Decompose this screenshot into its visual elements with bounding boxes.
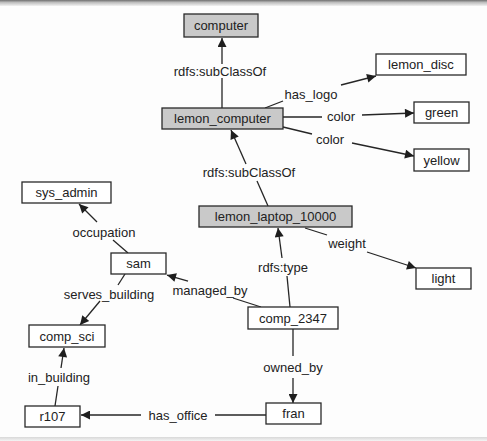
node-label: yellow: [423, 153, 460, 168]
node-label: r107: [39, 409, 65, 424]
edge-label: rdfs:subClassOf: [174, 64, 267, 79]
node-label: sys_admin: [35, 185, 97, 200]
edge-has-office: has_office: [81, 408, 266, 423]
node-r107: r107: [25, 406, 80, 427]
edge-label: color: [327, 109, 356, 124]
edge-label: has_office: [148, 408, 207, 423]
edge-label: rdfs:subClassOf: [203, 165, 296, 180]
node-lemon-computer: lemon_computer: [162, 108, 283, 129]
node-computer: computer: [184, 14, 258, 37]
edge-label: in_building: [28, 370, 90, 385]
edge-color-green: color: [283, 109, 414, 124]
node-yellow: yellow: [414, 149, 469, 171]
edge-label: managed_by: [172, 283, 248, 298]
edge-label: owned_by: [263, 360, 323, 375]
edge-managed-by: managed_by: [167, 275, 261, 307]
node-light: light: [416, 268, 471, 289]
edge-lemon-laptop-subclassof-lemon-computer: rdfs:subClassOf: [203, 130, 296, 206]
edge-serves-building: serves_building: [64, 274, 154, 325]
node-label: fran: [282, 406, 304, 421]
edge-label: color: [316, 132, 345, 147]
rdf-graph-diagram: rdfs:subClassOf has_logo color color rdf…: [0, 0, 487, 441]
node-label: computer: [194, 18, 249, 33]
node-label: lemon_laptop_10000: [215, 209, 336, 224]
node-label: lemon_computer: [174, 111, 271, 126]
edge-lemon-computer-subclassof-computer: rdfs:subClassOf: [174, 38, 267, 108]
node-label: comp_sci: [40, 329, 95, 344]
node-green: green: [414, 102, 469, 123]
node-label: comp_2347: [259, 311, 327, 326]
node-label: green: [425, 105, 458, 120]
node-comp-sci: comp_sci: [29, 325, 105, 347]
edge-label: occupation: [73, 225, 136, 240]
node-label: light: [432, 271, 456, 286]
edge-owned-by: owned_by: [263, 329, 323, 403]
edge-occupation: occupation: [73, 204, 136, 253]
edge-color-yellow: color: [283, 127, 414, 156]
edge-label: rdfs:type: [258, 260, 308, 275]
node-lemon-disc: lemon_disc: [376, 54, 466, 75]
node-comp-2347: comp_2347: [248, 307, 338, 329]
node-sys-admin: sys_admin: [22, 182, 111, 203]
node-lemon-laptop-10000: lemon_laptop_10000: [199, 206, 352, 227]
node-sam: sam: [111, 253, 166, 274]
node-fran: fran: [266, 403, 321, 424]
edge-has-logo: has_logo: [265, 76, 376, 108]
edge-label: weight: [327, 236, 366, 251]
node-label: lemon_disc: [388, 57, 454, 72]
edge-weight: weight: [305, 228, 416, 268]
edge-label: has_logo: [285, 87, 338, 102]
node-label: sam: [126, 256, 151, 271]
edge-label: serves_building: [64, 287, 154, 302]
edge-in-building: in_building: [28, 348, 90, 406]
edge-rdfs-type: rdfs:type: [258, 228, 308, 307]
